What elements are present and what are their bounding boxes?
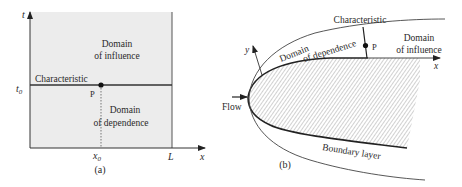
y-axis-b <box>253 46 262 75</box>
t-axis-label: t <box>22 9 25 20</box>
x0-label: x0 <box>92 150 101 163</box>
point-p-label-b: P <box>372 42 377 52</box>
y-axis-label-b: y <box>244 45 250 55</box>
domain-influence-label-1: Domain <box>102 39 133 49</box>
point-p-label: P <box>90 89 95 99</box>
t0-label: t0 <box>16 83 23 96</box>
characteristic-label: Characteristic <box>35 74 88 84</box>
domain-influence-label-2: of influence <box>94 51 140 61</box>
boundary-layer-label: Boundary layer <box>322 142 382 161</box>
domain-dependence-label-2: of dependence <box>93 118 148 128</box>
domain-influence-label-b-2: of influence <box>396 45 442 55</box>
x-axis-label-b: x <box>433 61 439 71</box>
characteristic-label-b: Characteristic <box>334 15 387 25</box>
L-label: L <box>167 151 174 162</box>
x-axis-label: x <box>199 151 205 162</box>
point-p-b <box>363 43 368 48</box>
caption-b: (b) <box>279 159 291 171</box>
panel-b: Flow y x Characteristic P Domain of depe… <box>222 15 445 180</box>
domain-influence-label-b-1: Domain <box>404 33 435 43</box>
characteristic-line-b <box>363 27 367 58</box>
figure: t t0 x0 L x Domain of influence Characte… <box>0 0 462 187</box>
flow-label: Flow <box>222 102 242 112</box>
point-p <box>98 82 103 87</box>
caption-a: (a) <box>94 164 105 176</box>
panel-a: t t0 x0 L x Domain of influence Characte… <box>16 9 205 176</box>
boundary-layer-region <box>248 58 420 148</box>
domain-dependence-label-1: Domain <box>110 105 141 115</box>
